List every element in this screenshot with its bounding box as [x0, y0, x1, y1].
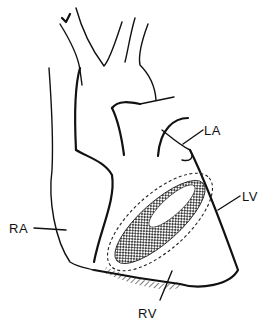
- aortic-arch-stub: [140, 97, 174, 104]
- aortic-arch-outer: [139, 24, 156, 100]
- left-atrium: [158, 118, 192, 161]
- label-rv: RV: [138, 306, 157, 321]
- vessel-branch-1: [76, 8, 122, 66]
- label-ra: RA: [9, 221, 28, 236]
- pulmonary-trunk-edge: [112, 108, 124, 155]
- ra-outer-edge: [49, 68, 93, 270]
- ra-leader-line: [34, 228, 66, 230]
- aortic-arch-inner: [112, 102, 140, 108]
- right-atrium: [49, 68, 113, 270]
- lv-leader-line: [218, 196, 240, 210]
- la-leader-line: [183, 130, 203, 144]
- vessel-branch-2: [125, 18, 135, 62]
- ra-inner-edge: [76, 150, 113, 262]
- label-lv: LV: [242, 189, 258, 204]
- la-outer: [158, 118, 188, 156]
- great-vessels: [60, 8, 174, 155]
- svc-right-edge: [75, 68, 80, 150]
- vessel-top-notch: [62, 14, 70, 22]
- ventricles: [92, 150, 238, 287]
- label-la: LA: [204, 123, 221, 138]
- heart-drawing: LA LV RA RV: [0, 0, 265, 325]
- heart-diagram: LA LV RA RV: [0, 0, 265, 325]
- la-inner: [162, 130, 192, 161]
